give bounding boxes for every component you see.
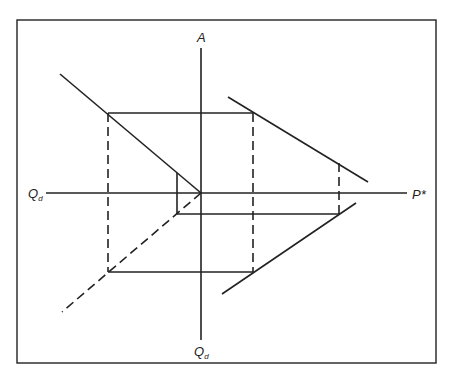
lower-right-curve — [222, 203, 356, 294]
lower-left-dashed-ray — [62, 193, 201, 312]
label-left-axis-sub: d — [38, 194, 43, 203]
upper-left-curve — [60, 74, 201, 193]
label-bottom-axis: Qd — [194, 344, 209, 361]
label-right-axis: P* — [412, 187, 427, 202]
solid-lines — [60, 74, 368, 294]
label-top-axis: A — [196, 30, 206, 45]
label-bottom-axis-sub: d — [204, 352, 209, 361]
axes — [46, 48, 407, 340]
diagram-frame — [17, 20, 436, 363]
upper-right-curve — [228, 97, 368, 182]
label-left-axis-main: Q — [28, 186, 38, 201]
label-bottom-axis-main: Q — [194, 344, 204, 359]
four-quadrant-diagram: A Qd P* Qd — [0, 0, 453, 377]
label-left-axis: Qd — [28, 186, 43, 203]
